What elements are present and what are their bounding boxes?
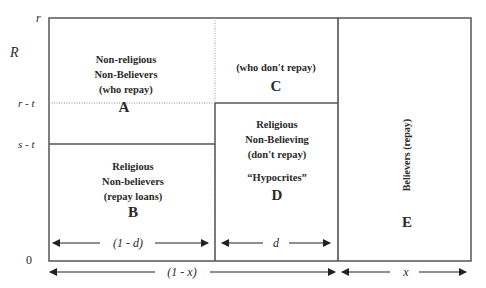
x-label: x bbox=[402, 265, 409, 279]
region-d-line1: Religious bbox=[256, 119, 297, 130]
d-arrow: d bbox=[222, 236, 330, 250]
one-minus-d-label: (1 - d) bbox=[113, 236, 143, 250]
region-c: (who don't repay) C bbox=[236, 62, 316, 94]
region-b-line2: Non-believers bbox=[102, 176, 164, 187]
y-label-zero: 0 bbox=[26, 253, 32, 267]
region-e-letter: E bbox=[402, 214, 412, 230]
one-minus-x-label: (1 - x) bbox=[167, 265, 196, 279]
region-d-letter: D bbox=[272, 187, 283, 203]
region-b-letter: B bbox=[128, 204, 138, 220]
region-a-line2: Non-Believers bbox=[95, 69, 158, 80]
region-d-line4: “Hypocrites” bbox=[247, 172, 307, 183]
one-minus-x-arrow: (1 - x) bbox=[50, 265, 335, 279]
x-arrow: x bbox=[342, 265, 466, 279]
d-label: d bbox=[273, 236, 280, 250]
region-b-line3: (repay loans) bbox=[104, 191, 163, 203]
y-label-r-minus-t: r - t bbox=[18, 97, 35, 109]
y-label-s-minus-t: s - t bbox=[18, 138, 35, 150]
region-d: Religious Non-Believing (don't repay) “H… bbox=[245, 119, 309, 203]
region-a: Non-religious Non-Believers (who repay) … bbox=[95, 54, 158, 115]
region-b-line1: Religious bbox=[112, 161, 153, 172]
one-minus-d-arrow: (1 - d) bbox=[53, 236, 208, 250]
diagram: r R r - t s - t 0 Non-religious Non-Beli… bbox=[0, 0, 486, 288]
region-c-letter: C bbox=[271, 78, 282, 94]
region-e: Believers (repay) E bbox=[401, 119, 413, 230]
region-d-line2: Non-Believing bbox=[245, 134, 309, 145]
region-c-line1: (who don't repay) bbox=[236, 62, 316, 74]
region-b: Religious Non-believers (repay loans) B bbox=[102, 161, 164, 220]
region-e-vertical-label: Believers (repay) bbox=[401, 119, 413, 191]
region-d-line3: (don't repay) bbox=[248, 149, 307, 161]
region-a-line3: (who repay) bbox=[99, 84, 153, 96]
region-a-line1: Non-religious bbox=[96, 54, 156, 65]
y-label-R: R bbox=[9, 45, 19, 60]
y-label-r: r bbox=[36, 11, 41, 25]
region-a-letter: A bbox=[119, 99, 130, 115]
